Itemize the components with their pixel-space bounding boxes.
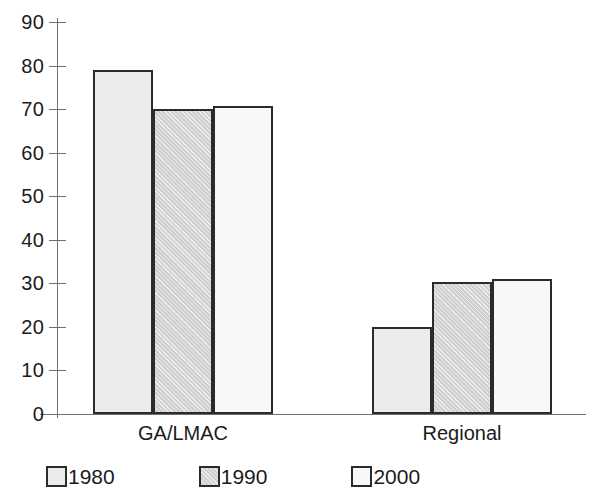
- bar-ga-lmac-1980: [93, 70, 153, 414]
- category-label-regional: Regional: [362, 421, 562, 445]
- legend-label-1980: 1980: [68, 466, 115, 487]
- legend-swatch-1980: [46, 466, 67, 487]
- bar-chart: 0102030405060708090 GA/LMACRegional 1980…: [0, 0, 606, 499]
- x-axis-line: [40, 414, 586, 415]
- bar-regional-1980: [372, 327, 432, 414]
- legend-item-1990[interactable]: 1990: [199, 466, 268, 487]
- category-label-ga-lmac: GA/LMAC: [83, 421, 283, 445]
- bar-regional-2000: [492, 279, 552, 414]
- y-axis-tick-mark: [49, 414, 66, 415]
- legend-label-1990: 1990: [221, 466, 268, 487]
- legend-swatch-2000: [351, 466, 372, 487]
- bars-layer: [0, 0, 606, 414]
- plot-area: 0102030405060708090 GA/LMACRegional: [0, 0, 606, 440]
- legend-swatch-1990: [199, 466, 220, 487]
- legend-item-2000[interactable]: 2000: [351, 466, 420, 487]
- legend-item-1980[interactable]: 1980: [46, 466, 115, 487]
- bar-regional-1990: [432, 282, 492, 414]
- bar-ga-lmac-1990: [153, 109, 213, 414]
- chart-legend: 198019902000: [46, 466, 420, 487]
- legend-label-2000: 2000: [373, 466, 420, 487]
- bar-ga-lmac-2000: [213, 106, 273, 414]
